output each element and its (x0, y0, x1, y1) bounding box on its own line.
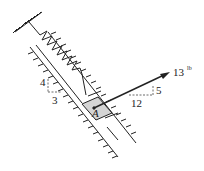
guide-slope-vertical-label: 4 (40, 76, 46, 88)
force-slope-vertical-label: 5 (156, 84, 162, 96)
guide-slope-horizontal-label: 3 (52, 94, 58, 106)
force-magnitude-label: 13 (173, 66, 185, 78)
force-unit-label: lb (187, 65, 192, 71)
block-label: A (91, 107, 99, 119)
diagram-canvas: 4 3 5 12 A 13 lb (0, 0, 204, 171)
guide-inner-lines (36, 45, 118, 140)
force-slope-horizontal-label: 12 (131, 97, 142, 109)
fixed-support (13, 12, 42, 33)
